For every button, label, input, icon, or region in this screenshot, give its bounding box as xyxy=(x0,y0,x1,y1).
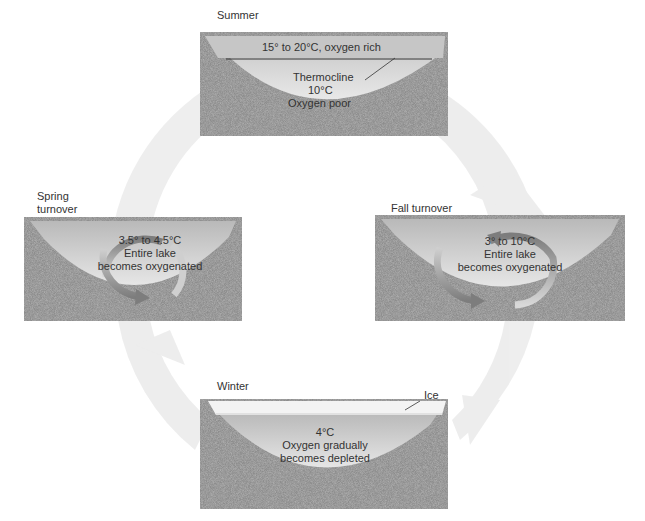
stage-title-spring-line2: turnover xyxy=(37,203,77,216)
stage-title-summer: Summer xyxy=(217,9,259,22)
summer-deep-temp: 10°C xyxy=(308,84,333,97)
stage-title-winter: Winter xyxy=(217,380,249,393)
winter-line1: Oxygen gradually xyxy=(270,439,380,452)
fall-line2: becomes oxygenated xyxy=(448,261,572,274)
summer-deep-oxygen: Oxygen poor xyxy=(288,97,351,110)
spring-line2: becomes oxygenated xyxy=(88,260,212,273)
winter-temp: 4°C xyxy=(270,426,380,439)
fall-temp: 3° to 10°C xyxy=(455,235,565,248)
fall-line1: Entire lake xyxy=(455,248,565,261)
summer-surface-label: 15° to 20°C, oxygen rich xyxy=(262,41,381,54)
winter-line2: becomes depleted xyxy=(270,452,380,465)
winter-ice-label: Ice xyxy=(424,389,439,402)
summer-thermocline-label: Thermocline xyxy=(293,71,354,84)
stage-title-spring-line1: Spring xyxy=(37,190,77,203)
stage-title-fall: Fall turnover xyxy=(391,202,452,215)
spring-line1: Entire lake xyxy=(95,247,205,260)
spring-temp: 3.5° to 4.5°C xyxy=(95,234,205,247)
stage-title-spring: Spring turnover xyxy=(37,190,77,216)
